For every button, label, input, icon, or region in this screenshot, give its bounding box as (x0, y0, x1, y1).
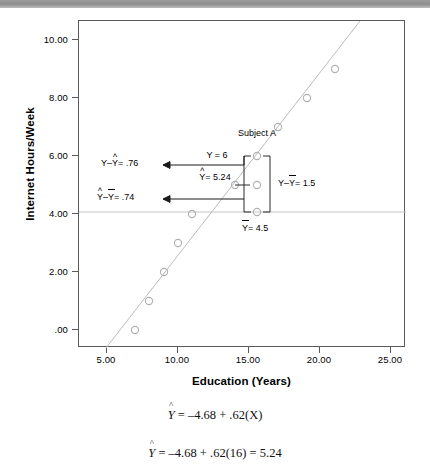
data-point (145, 297, 152, 304)
caret-icon: ^ (112, 153, 118, 162)
plot-graphics (79, 21, 406, 348)
y-hat-value-label: ^Y= 5.24 (184, 173, 246, 182)
regression-line (106, 21, 360, 348)
y-tick-label-8: 8.00 (24, 92, 68, 103)
explained-arrow (163, 196, 244, 203)
y-hat-value-text: = 5.24 (205, 172, 230, 182)
y-tick-label-10: 10.00 (24, 34, 68, 45)
x-axis-title: Education (Years) (78, 375, 405, 387)
equation-evaluated: ^Y = –4.68 + .62(16) = 5.24 (0, 446, 430, 461)
y-tick-label-0: .00 (24, 324, 68, 335)
overbar-icon (108, 189, 115, 190)
y-observed-text: Y = 6 (206, 150, 227, 160)
total-deviation-label: Y–Y= 1.5 (278, 179, 315, 188)
explained-rhs: = .74 (114, 192, 134, 202)
subject-a-bracket-right (263, 156, 270, 212)
mean-line-label: Y= 4.5 (242, 224, 268, 233)
caret-icon: ^ (148, 439, 155, 448)
data-point-subject-a-fitted (253, 181, 260, 188)
y-tick-label-4: 4.00 (24, 208, 68, 219)
y-hat-symbol: ^Y (199, 173, 205, 182)
data-point (131, 326, 138, 333)
subject-a-label: Subject A (221, 129, 293, 138)
y-observed-label: Y = 6 (187, 151, 247, 160)
x-tick-label-10: 10.00 (152, 354, 202, 365)
data-point (303, 94, 310, 101)
equation-1-y-hat: ^Y (168, 408, 175, 423)
total-rhs: = 1.5 (295, 178, 315, 188)
equation-1-body: = –4.68 + .62(X) (175, 408, 263, 422)
total-lhs-left: Y– (278, 178, 289, 188)
explained-label: ^Y–Y= .74 (97, 193, 134, 202)
residual-label: Y–^Y= .76 (101, 159, 138, 168)
data-point (160, 268, 167, 275)
residual-lhs-left: Y– (101, 158, 112, 168)
explained-y-bar-symbol: Y (108, 193, 114, 202)
caret-icon: ^ (97, 187, 103, 196)
x-tick-label-20: 20.00 (294, 354, 344, 365)
data-point (188, 210, 195, 217)
residual-rhs: = .76 (118, 158, 138, 168)
x-tick-label-25: 25.00 (365, 354, 415, 365)
total-y-bar-symbol: Y (289, 179, 295, 188)
y-tick-label-2: 2.00 (24, 266, 68, 277)
mean-label-rhs: = 4.5 (248, 223, 268, 233)
data-point (174, 239, 181, 246)
explained-y-hat-symbol: ^Y (97, 193, 103, 202)
x-tick-label-5: 5.00 (81, 354, 131, 365)
equation-general: ^Y = –4.68 + .62(X) (0, 408, 430, 423)
data-point (331, 65, 338, 72)
equation-2-body: = –4.68 + .62(16) = 5.24 (155, 446, 281, 460)
mean-y-bar-symbol: Y (242, 224, 248, 233)
overbar-icon (289, 175, 296, 176)
overbar-icon (242, 220, 249, 221)
caret-icon: ^ (168, 401, 175, 410)
figure-container: Internet Hours/Week Education (Years) 10… (0, 8, 430, 471)
caret-icon: ^ (199, 167, 205, 176)
equation-2-y-hat: ^Y (148, 446, 155, 461)
plot-area: Subject A Y = 6 ^Y= 5.24 Y–^Y= .76 ^Y–Y=… (78, 20, 405, 347)
header-band (0, 0, 430, 8)
residual-y-hat-symbol: ^Y (112, 159, 118, 168)
subject-a-bracket-left (244, 156, 251, 212)
x-tick-label-15: 15.00 (223, 354, 273, 365)
y-tick-label-6: 6.00 (24, 150, 68, 161)
